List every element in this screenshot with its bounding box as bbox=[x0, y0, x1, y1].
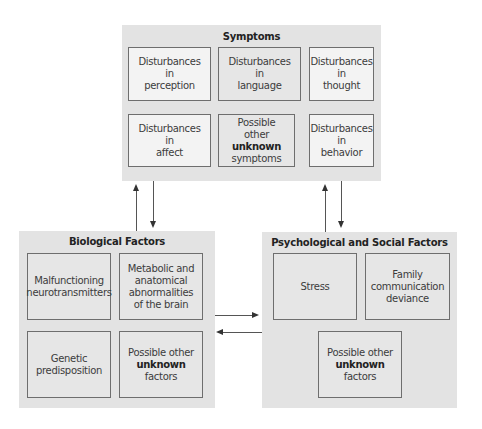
cell-text-bold: unknown bbox=[136, 359, 185, 370]
cell-text: Disturbances bbox=[138, 56, 200, 67]
cell-text: Family bbox=[392, 269, 422, 280]
symptoms-group: Symptoms Disturbancesinperception Distur… bbox=[122, 25, 381, 181]
cell-text: communication bbox=[371, 281, 444, 292]
symptom-perception: Disturbancesinperception bbox=[128, 47, 211, 101]
bio-unknown: Possible otherunknownfactors bbox=[119, 331, 203, 398]
psych-family-deviance: Familycommunicationdeviance bbox=[365, 253, 450, 320]
cell-text: Disturbances bbox=[310, 123, 372, 134]
cell-text: Metabolic and bbox=[128, 263, 194, 274]
cell-text: other bbox=[244, 129, 269, 140]
cell-text-bold: unknown bbox=[335, 359, 384, 370]
cell-text: Possible other bbox=[327, 347, 393, 358]
cell-text: anatomical bbox=[135, 275, 188, 286]
bio-neurotransmitters: Malfunctioningneurotransmitters bbox=[27, 253, 111, 320]
cell-text: in bbox=[165, 135, 174, 146]
cell-text: in bbox=[337, 68, 346, 79]
cell-text: of the brain bbox=[134, 299, 189, 310]
bio-genetic: Geneticpredisposition bbox=[27, 331, 111, 398]
cell-text: affect bbox=[156, 147, 183, 158]
symptoms-title: Symptoms bbox=[122, 31, 381, 42]
cell-text: symptoms bbox=[232, 153, 282, 164]
cell-text-bold: unknown bbox=[232, 141, 281, 152]
cell-text: in bbox=[165, 68, 174, 79]
biological-title: Biological Factors bbox=[19, 236, 215, 247]
cell-text: Disturbances bbox=[228, 56, 290, 67]
cell-text: Disturbances bbox=[310, 56, 372, 67]
cell-text: Malfunctioning bbox=[34, 275, 104, 286]
symptom-unknown: Possibleother unknownsymptoms bbox=[218, 114, 295, 167]
arrow-left-icon bbox=[216, 329, 223, 335]
arrow-down-icon bbox=[338, 221, 344, 228]
psychosocial-title: Psychological and Social Factors bbox=[262, 237, 457, 248]
cell-text: Stress bbox=[301, 281, 330, 292]
arrow-up-icon bbox=[322, 184, 328, 191]
symptom-affect: Disturbancesinaffect bbox=[128, 114, 211, 167]
bio-brain-abnormalities: Metabolic andanatomicalabnormalitiesof t… bbox=[119, 253, 203, 320]
cell-text: abnormalities bbox=[129, 287, 193, 298]
cell-text: factors bbox=[145, 371, 177, 382]
psych-stress: Stress bbox=[273, 253, 357, 320]
cell-text: perception bbox=[144, 80, 195, 91]
cell-text: Disturbances bbox=[138, 123, 200, 134]
psych-unknown: Possible otherunknownfactors bbox=[318, 331, 402, 398]
cell-text: neurotransmitters bbox=[26, 287, 111, 298]
psychosocial-factors-group: Psychological and Social Factors Stress … bbox=[262, 232, 457, 408]
cell-text: predisposition bbox=[36, 365, 102, 376]
cell-text: Genetic bbox=[51, 353, 88, 364]
arrow-right-icon bbox=[252, 312, 259, 318]
cell-text: thought bbox=[323, 80, 360, 91]
arrow-up-icon bbox=[133, 184, 139, 191]
symptom-language: Disturbancesinlanguage bbox=[218, 47, 301, 101]
cell-text: Possible other bbox=[128, 347, 194, 358]
cell-text: in bbox=[255, 68, 264, 79]
biological-factors-group: Biological Factors Malfunctioningneurotr… bbox=[19, 231, 215, 408]
symptom-thought: Disturbancesinthought bbox=[309, 47, 374, 101]
cell-text: deviance bbox=[386, 293, 429, 304]
cell-text: behavior bbox=[321, 147, 363, 158]
arrow-down-icon bbox=[150, 221, 156, 228]
symptom-behavior: Disturbancesinbehavior bbox=[309, 114, 374, 167]
cell-text: factors bbox=[344, 371, 376, 382]
cell-text: language bbox=[237, 80, 281, 91]
cell-text: in bbox=[337, 135, 346, 146]
cell-text: Possible bbox=[238, 117, 276, 128]
